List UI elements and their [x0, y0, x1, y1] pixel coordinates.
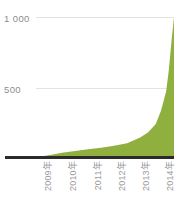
x-tick-label-2014: 2014年 [163, 161, 176, 191]
x-tick-label-2012: 2012年 [115, 161, 128, 191]
x-tick-label-2010: 2010年 [66, 161, 79, 191]
x-tick-2010: 2010年 [65, 161, 79, 207]
x-tick-2014: 2014年 [162, 161, 176, 207]
x-tick-label-2011: 2011年 [91, 161, 104, 190]
y-axis-label-1000: 1 000 [4, 13, 44, 24]
x-tick-2009: 2009年 [40, 161, 54, 207]
x-axis-baseline [5, 156, 174, 159]
y-axis-label-500: 500 [4, 84, 44, 95]
x-tick-label-2013: 2013年 [139, 161, 152, 191]
x-tick-2011: 2011年 [90, 161, 104, 207]
x-tick-label-2009: 2009年 [41, 161, 54, 191]
area-series-svg [36, 17, 174, 157]
plot-area [36, 17, 174, 157]
area-series-path [36, 17, 174, 157]
x-axis-tick-labels: 2009年 2010年 2011年 2012年 2013年 2014年 [36, 161, 174, 207]
chart-container: 1 000 500 2009年 2010年 2011年 2012年 2013年 … [0, 0, 184, 209]
x-tick-2013: 2013年 [138, 161, 152, 207]
x-tick-2012: 2012年 [114, 161, 128, 207]
